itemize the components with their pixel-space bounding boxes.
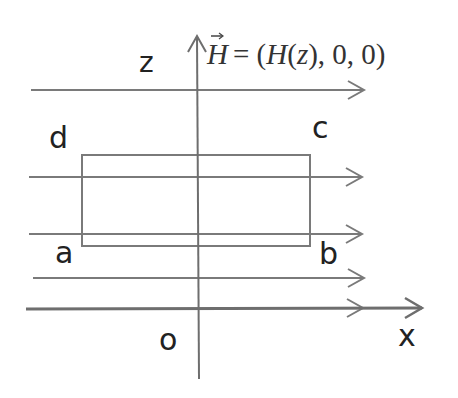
corner-label-c: c <box>312 110 329 145</box>
corner-label-b: b <box>319 236 338 271</box>
z-axis-label: z <box>139 46 154 79</box>
field-line-3 <box>29 225 362 243</box>
equation-rhs: = (H(z), 0, 0) <box>233 38 386 71</box>
x-axis-label: x <box>398 318 416 353</box>
x-axis <box>26 298 422 318</box>
corner-label-d: d <box>49 120 68 155</box>
z-axis <box>188 36 206 379</box>
origin-label: o <box>159 322 177 357</box>
vector-symbol: H <box>206 38 230 70</box>
field-equation: H = (H(z), 0, 0) <box>206 33 386 71</box>
field-line-2 <box>29 168 362 186</box>
corner-label-a: a <box>55 235 73 270</box>
diagram-canvas: z x o d c a b H = (H(z), 0, 0) <box>0 0 458 398</box>
loop-rectangle <box>82 155 310 246</box>
